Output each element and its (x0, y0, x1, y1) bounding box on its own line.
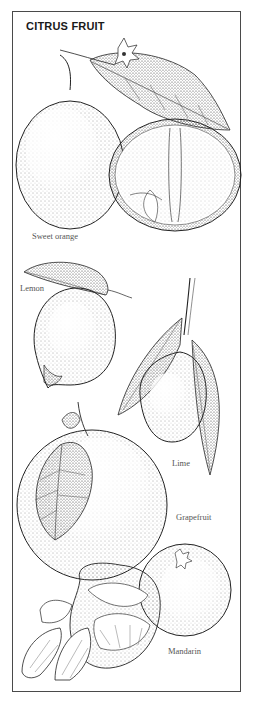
mandarin-peeled-icon (22, 563, 160, 680)
sweet-orange-whole-icon (16, 101, 124, 229)
label-grapefruit: Grapefruit (176, 512, 211, 522)
lemon-icon (34, 288, 115, 388)
label-lemon: Lemon (20, 283, 44, 293)
label-sweet-orange: Sweet orange (32, 231, 78, 241)
citrus-illustration (0, 0, 256, 703)
sweet-orange-half-icon (109, 119, 241, 231)
label-mandarin: Mandarin (168, 646, 201, 656)
label-lime: Lime (172, 458, 190, 468)
page-title: CITRUS FRUIT (26, 20, 105, 32)
